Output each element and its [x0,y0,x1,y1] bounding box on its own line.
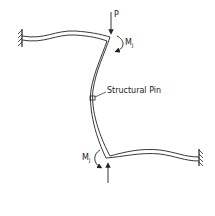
load-label: P [114,10,119,19]
moment-arrow-top-icon [117,36,123,51]
fixed-support-right-icon [199,149,203,166]
structural-frame-diagram: Structural Pin P MJ MJ [0,0,215,216]
top-beam [22,31,110,41]
fixed-support-left-icon [18,29,22,47]
moment-bottom-label: MJ [82,153,90,163]
pin-label: Structural Pin [107,86,161,95]
pin-leader-line [95,92,106,97]
moment-arrow-bottom-icon [95,150,100,167]
deflected-column [91,37,110,158]
moment-top-label: MJ [125,38,133,48]
bottom-beam [106,149,199,161]
